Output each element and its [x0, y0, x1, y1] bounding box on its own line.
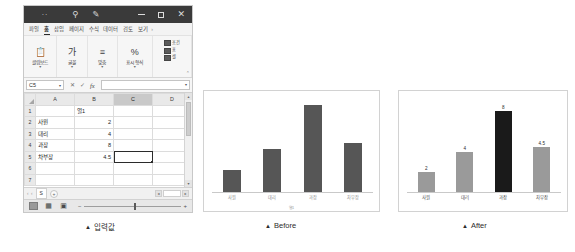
sheet-nav-first-icon[interactable]: ‹ [27, 191, 29, 196]
cell-c5-active[interactable] [114, 151, 153, 163]
row-header-7[interactable]: 7 [25, 174, 36, 186]
clipboard-icon[interactable]: 📋 [34, 46, 47, 59]
ribbon-group-clipboard[interactable]: 📋 클립보드 ▾ [24, 36, 57, 77]
cell-b3[interactable]: 4 [75, 128, 114, 140]
chart-after-x-labels: 사원 대리 과장 차부장 [407, 195, 561, 204]
font-icon[interactable]: 가 [65, 46, 78, 59]
table-row: 5 차부장 4.5 [25, 151, 192, 163]
cell-style-icon[interactable] [164, 55, 171, 61]
column-header-a[interactable]: A [36, 94, 75, 106]
worksheet-grid[interactable]: A B C D 1 열1 2 사원 2 [24, 93, 192, 187]
ribbon-group-number-format[interactable]: % 표시 형식 ▾ [118, 36, 153, 77]
column-header-c[interactable]: C [114, 94, 153, 106]
minimize-button[interactable] [138, 14, 145, 15]
add-sheet-button[interactable]: + [50, 190, 58, 198]
sheet-tab-item[interactable]: S [36, 188, 47, 199]
normal-view-icon[interactable] [29, 202, 38, 210]
row-header-3[interactable]: 3 [25, 128, 36, 140]
pen-icon[interactable]: ✎ [92, 10, 99, 19]
close-button[interactable]: ✕ [177, 10, 185, 19]
conditional-format-icon[interactable] [164, 40, 171, 46]
collapse-ribbon-icon[interactable]: ⌃ [186, 70, 190, 76]
screenshot-root: ·· ⚲ ✎ ✕ 파일 홈 삽입 페이지 수식 데이터 검토 보기 › [0, 0, 575, 252]
cell-a3[interactable]: 대리 [36, 128, 75, 140]
bar-slot: 8 [486, 97, 520, 192]
cell-c3[interactable] [114, 128, 153, 140]
scroll-down-icon[interactable]: ▾ [185, 180, 192, 187]
zoom-slider-track[interactable] [84, 206, 182, 207]
vertical-scroll-thumb[interactable] [186, 102, 191, 136]
ribbon-tab-insert[interactable]: 삽입 [52, 23, 67, 35]
horizontal-scroll-thumb[interactable] [163, 190, 181, 197]
cancel-entry-icon[interactable]: ✕ [70, 82, 75, 88]
chevron-down-icon[interactable]: ▾ [134, 65, 136, 69]
cell-c4[interactable] [114, 140, 153, 152]
cell-c2[interactable] [114, 117, 153, 129]
ribbon-tab-formulas[interactable]: 수식 [86, 23, 101, 35]
zoom-in-icon[interactable]: + [183, 203, 187, 209]
chevron-down-icon[interactable]: ▾ [59, 83, 61, 88]
cell-b5[interactable]: 4.5 [75, 151, 114, 163]
column-header-b[interactable]: B [75, 94, 114, 106]
cell-c1[interactable] [114, 105, 153, 117]
chevron-down-icon[interactable]: ▾ [71, 65, 73, 69]
zoom-slider-thumb[interactable] [134, 203, 136, 210]
cell-b2[interactable]: 2 [75, 117, 114, 129]
cell-b6[interactable] [75, 163, 114, 175]
cell-a5[interactable]: 차부장 [36, 151, 75, 163]
table-style-icon[interactable] [164, 48, 171, 54]
cell-a7[interactable] [36, 174, 75, 186]
zoom-out-icon[interactable]: − [78, 203, 82, 209]
insert-function-icon[interactable]: fx [90, 82, 95, 89]
percent-icon[interactable]: % [128, 46, 141, 59]
row-header-1[interactable]: 1 [25, 105, 36, 117]
ribbon-group-font[interactable]: 가 글꼴 ▾ [57, 36, 87, 77]
search-icon[interactable]: ⚲ [72, 10, 78, 19]
row-header-2[interactable]: 2 [25, 117, 36, 129]
cell-a4[interactable]: 과장 [36, 140, 75, 152]
hscroll-right-icon[interactable]: ▸ [182, 190, 189, 197]
vertical-scrollbar[interactable]: ▴ ▾ [184, 93, 192, 187]
page-break-icon[interactable]: ▣ [59, 202, 68, 210]
cell-a2[interactable]: 사원 [36, 117, 75, 129]
cell-a1[interactable] [36, 105, 75, 117]
formula-input[interactable]: ▾ [101, 80, 190, 90]
cell-b4[interactable]: 8 [75, 140, 114, 152]
ribbon-tab-review[interactable]: 검토 [121, 23, 136, 35]
chevron-down-icon[interactable]: ▾ [101, 65, 103, 69]
hscroll-left-icon[interactable]: ◂ [155, 190, 162, 197]
ribbon-overflow-icon[interactable]: › [151, 26, 153, 32]
row-header-4[interactable]: 4 [25, 140, 36, 152]
cell-c7[interactable] [114, 174, 153, 186]
ribbon-tab-page-layout[interactable]: 페이지 [66, 23, 86, 35]
chevron-down-icon[interactable]: ▾ [39, 65, 41, 69]
chart-after-bars: 2 4 8 4.5 [407, 97, 561, 192]
quick-access-toolbar[interactable]: ·· [24, 11, 66, 18]
cell-a6[interactable] [36, 163, 75, 175]
confirm-entry-icon[interactable]: ✓ [80, 82, 85, 88]
ribbon-tab-view[interactable]: 보기 [135, 23, 150, 35]
select-all-corner[interactable] [25, 94, 36, 106]
zoom-slider[interactable]: − + [78, 203, 187, 209]
bar-after-3 [533, 147, 550, 193]
maximize-button[interactable] [158, 12, 164, 18]
row-header-5[interactable]: 5 [25, 151, 36, 163]
sheet-nav-prev-icon[interactable]: ‹ [31, 191, 33, 196]
expand-formula-bar-icon[interactable]: ▾ [185, 82, 187, 87]
sheet-nav-arrows[interactable]: ‹ ‹ [27, 191, 33, 196]
ribbon-tab-home[interactable]: 홈 [42, 23, 52, 35]
ribbon-group-alignment[interactable]: ≡ 맞춤 ▾ [88, 36, 118, 77]
scroll-up-icon[interactable]: ▴ [185, 93, 192, 100]
cell-c6[interactable] [114, 163, 153, 175]
ribbon-tab-file[interactable]: 파일 [27, 23, 42, 35]
ribbon-tab-data[interactable]: 데이터 [101, 23, 121, 35]
page-layout-icon[interactable]: ▦ [44, 202, 53, 210]
status-bar: ▦ ▣ − + [24, 199, 192, 212]
row-header-6[interactable]: 6 [25, 163, 36, 175]
cell-b1[interactable]: 열1 [75, 105, 114, 117]
align-icon[interactable]: ≡ [96, 46, 109, 59]
horizontal-scrollbar[interactable]: ◂ ▸ [155, 190, 189, 197]
name-box[interactable]: C5 ▾ [26, 80, 64, 90]
menu-dots-icon[interactable]: ·· [42, 11, 49, 18]
cell-b7[interactable] [75, 174, 114, 186]
